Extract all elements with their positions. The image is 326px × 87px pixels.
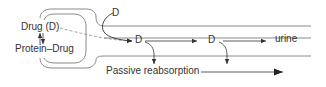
passive-reabsorption-label: Passive reabsorption (106, 66, 199, 76)
protein-drug-label: Protein–Drug (15, 44, 74, 54)
tubule-drug-label-2: D (208, 35, 215, 45)
reabsorption-arrow-1 (145, 42, 154, 64)
filtration-arrow (60, 28, 132, 41)
reabsorption-arrow-2 (219, 42, 227, 64)
capsule-outline (40, 9, 311, 68)
filtered-drug-label: D (112, 8, 119, 18)
drug-label: Drug (D) (21, 22, 59, 32)
urine-label: urine (275, 34, 297, 44)
renal-excretion-diagram: Drug (D) Protein–Drug D D D urine Passiv… (0, 0, 326, 87)
tubule-drug-label-1: D (135, 35, 142, 45)
